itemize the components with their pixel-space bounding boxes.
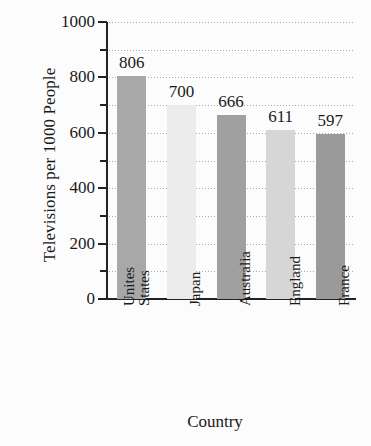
y-tick-label: 0 [87, 289, 96, 309]
tick-mark [98, 243, 107, 245]
tick-mark [100, 49, 107, 51]
tick-mark [100, 215, 107, 217]
category-label: States [136, 270, 153, 306]
y-tick-label: 200 [70, 234, 96, 254]
gridline [106, 50, 354, 51]
bar-value-label: 700 [169, 82, 195, 102]
y-axis-title: Televisions per 1000 People [40, 15, 60, 315]
tick-mark [98, 76, 107, 78]
bar [117, 76, 146, 299]
bar-value-label: 611 [268, 107, 293, 127]
bar-value-label: 666 [218, 92, 244, 112]
category-label: Australia [237, 251, 254, 306]
category-label: England [287, 256, 304, 306]
y-tick-label: 600 [70, 123, 96, 143]
bar-value-label: 597 [317, 111, 343, 131]
y-tick-label: 800 [70, 67, 96, 87]
tick-mark [100, 104, 107, 106]
tick-mark [100, 270, 107, 272]
tick-mark [98, 132, 107, 134]
tick-mark [98, 187, 107, 189]
y-tick-label: 1000 [61, 12, 95, 32]
bar [167, 105, 196, 299]
gridline [106, 22, 354, 23]
bar-chart-figure: Televisions per 1000 People 020040060080… [0, 0, 371, 446]
tick-mark [98, 21, 107, 23]
y-tick-label: 400 [70, 178, 96, 198]
category-label: France [336, 265, 353, 306]
tick-mark [98, 298, 107, 300]
category-label: Japan [187, 272, 204, 306]
x-axis-title: Country [95, 412, 335, 432]
tick-mark [100, 160, 107, 162]
bar-value-label: 806 [119, 53, 145, 73]
